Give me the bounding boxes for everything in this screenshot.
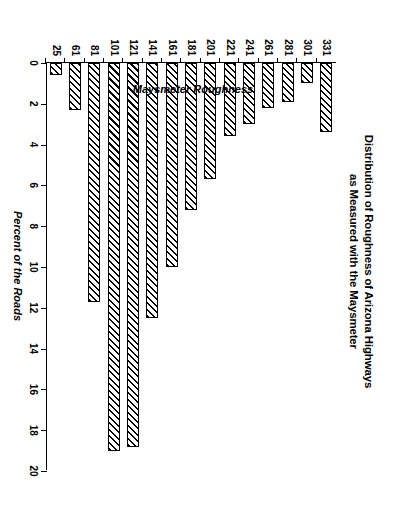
value-tick-label: 14 xyxy=(28,343,39,354)
category-tick-label: 221 xyxy=(224,39,235,56)
value-axis-title: Percent of the Roads xyxy=(12,62,24,470)
value-tick-label: 20 xyxy=(28,465,39,476)
value-tick xyxy=(41,308,47,309)
category-tick-label: 61 xyxy=(70,45,81,56)
bar-fill xyxy=(127,63,139,447)
category-tick xyxy=(238,58,239,63)
value-tick-label: 16 xyxy=(28,384,39,395)
bar-fill xyxy=(301,63,313,83)
value-tick-label: 8 xyxy=(28,223,39,229)
category-tick-label: 161 xyxy=(166,39,177,56)
value-tick-label: 0 xyxy=(28,60,39,66)
bar xyxy=(88,63,100,302)
value-tick xyxy=(41,63,47,64)
category-tick xyxy=(258,58,259,63)
category-tick-label: 201 xyxy=(205,39,216,56)
value-tick-label: 4 xyxy=(28,142,39,148)
rotated-figure-wrapper: Distribution of Roughness of Arizona Hig… xyxy=(0,0,398,523)
category-tick-label: 241 xyxy=(244,39,255,56)
bar xyxy=(69,63,81,110)
category-axis-title: Maysmeter Roughness xyxy=(94,83,294,95)
category-tick-label: 121 xyxy=(128,39,139,56)
bar-fill xyxy=(146,63,158,318)
value-tick xyxy=(41,471,47,472)
category-tick-label: 281 xyxy=(282,39,293,56)
value-tick xyxy=(41,430,47,431)
value-tick xyxy=(41,145,47,146)
bar-fill xyxy=(108,63,120,451)
chart-title-line2: as Measured with the Maysmeter xyxy=(349,174,361,349)
value-tick-label: 18 xyxy=(28,425,39,436)
category-tick xyxy=(296,58,297,63)
bar xyxy=(204,63,216,179)
category-tick xyxy=(142,58,143,63)
bar-fill xyxy=(204,63,216,179)
category-tick-label: 301 xyxy=(302,39,313,56)
bar xyxy=(301,63,313,83)
bar xyxy=(127,63,139,447)
category-tick-label: 25 xyxy=(50,45,61,56)
value-tick xyxy=(41,104,47,105)
bar xyxy=(50,63,62,75)
value-tick-label: 12 xyxy=(28,302,39,313)
chart-title-line1: Distribution of Roughness of Arizona Hig… xyxy=(363,135,375,388)
value-tick-label: 2 xyxy=(28,101,39,107)
value-tick-label: 10 xyxy=(28,261,39,272)
bar xyxy=(224,63,236,136)
category-tick-label: 261 xyxy=(263,39,274,56)
category-tick xyxy=(277,58,278,63)
category-tick xyxy=(219,58,220,63)
category-tick xyxy=(316,58,317,63)
value-tick xyxy=(41,267,47,268)
value-tick xyxy=(41,226,47,227)
value-tick xyxy=(41,349,47,350)
category-tick xyxy=(161,58,162,63)
category-tick xyxy=(122,58,123,63)
category-tick-label: 331 xyxy=(321,39,332,56)
category-tick-label: 81 xyxy=(89,45,100,56)
category-tick xyxy=(64,58,65,63)
category-tick-label: 141 xyxy=(147,39,158,56)
category-tick-label: 181 xyxy=(186,39,197,56)
scanned-page: Distribution of Roughness of Arizona Hig… xyxy=(0,0,398,523)
bar-fill xyxy=(88,63,100,302)
bar xyxy=(320,63,332,132)
category-tick-label: 101 xyxy=(108,39,119,56)
bar-fill xyxy=(224,63,236,136)
category-tick xyxy=(103,58,104,63)
category-tick xyxy=(200,58,201,63)
plot-area: 2561811011211411611812012212412612813013… xyxy=(46,62,336,470)
category-tick xyxy=(84,58,85,63)
bar-fill xyxy=(320,63,332,132)
bar xyxy=(146,63,158,318)
value-tick xyxy=(41,389,47,390)
bar-fill xyxy=(50,63,62,75)
category-tick xyxy=(180,58,181,63)
bar-fill xyxy=(69,63,81,110)
value-tick-label: 6 xyxy=(28,183,39,189)
bar-chart-figure: Distribution of Roughness of Arizona Hig… xyxy=(0,0,398,523)
bar xyxy=(108,63,120,451)
chart-title: Distribution of Roughness of Arizona Hig… xyxy=(347,0,376,523)
value-tick xyxy=(41,185,47,186)
